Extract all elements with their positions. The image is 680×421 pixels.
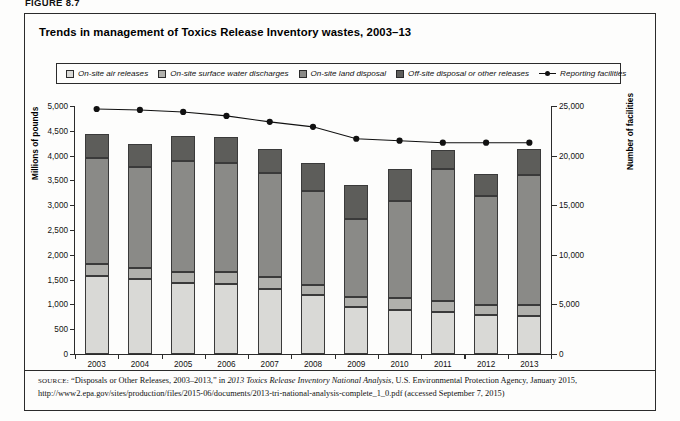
x-axis-label: 2003	[88, 360, 106, 369]
line-data-point[interactable]	[223, 113, 229, 119]
line-data-point[interactable]	[440, 140, 446, 146]
x-axis-label: 2004	[131, 360, 149, 369]
legend-item-label: Off-site disposal or other releases	[408, 69, 529, 78]
bar-segment[interactable]	[301, 191, 325, 284]
bar-segment[interactable]	[128, 167, 152, 269]
x-axis-tick	[291, 355, 292, 359]
x-axis-label: 2005	[174, 360, 192, 369]
bar-column[interactable]	[431, 150, 455, 354]
bar-column[interactable]	[171, 136, 195, 354]
bar-column[interactable]	[128, 144, 152, 354]
bar-segment[interactable]	[431, 169, 455, 302]
bar-column[interactable]	[85, 134, 109, 354]
line-data-point[interactable]	[483, 140, 489, 146]
bar-segment[interactable]	[301, 163, 325, 192]
bar-column[interactable]	[517, 149, 541, 354]
bar-column[interactable]	[474, 174, 498, 354]
bar-segment[interactable]	[431, 301, 455, 311]
bar-segment[interactable]	[214, 284, 238, 354]
figure-root: FIGURE 8.7 Trends in management of Toxic…	[0, 0, 680, 421]
y-axis-left-tick	[70, 304, 75, 305]
page-title: Trends in management of Toxics Release I…	[39, 26, 411, 38]
bar-segment[interactable]	[214, 137, 238, 162]
x-axis-tick	[162, 355, 163, 359]
bar-segment[interactable]	[171, 136, 195, 160]
bar-segment[interactable]	[474, 305, 498, 315]
legend-reporting-facilities[interactable]: Reporting facilities	[539, 69, 626, 78]
legend-swatch-icon	[158, 70, 166, 78]
bar-segment[interactable]	[344, 219, 368, 297]
bar-segment[interactable]	[344, 185, 368, 219]
bar-segment[interactable]	[517, 175, 541, 305]
x-axis-tick	[205, 355, 206, 359]
y-axis-left-tick	[70, 156, 75, 157]
bar-segment[interactable]	[85, 264, 109, 276]
bar-segment[interactable]	[301, 295, 325, 354]
line-data-point[interactable]	[396, 138, 402, 144]
bar-column[interactable]	[344, 185, 368, 354]
bar-segment[interactable]	[214, 272, 238, 284]
line-data-point[interactable]	[137, 107, 143, 113]
bar-segment[interactable]	[517, 305, 541, 316]
bar-segment[interactable]	[388, 298, 412, 309]
plot-area: 05001,0001,5002,0002,5003,0003,5004,0004…	[75, 106, 551, 354]
y-axis-right-label: 20,000	[559, 151, 584, 160]
chart-legend: On-site air releasesOn-site surface wate…	[56, 63, 621, 84]
line-data-point[interactable]	[310, 124, 316, 130]
bar-segment[interactable]	[128, 144, 152, 167]
line-data-point[interactable]	[267, 119, 273, 125]
y-axis-right-label: 5,000	[559, 300, 580, 309]
x-axis-tick	[248, 355, 249, 359]
y-axis-right-label: 0	[559, 350, 564, 359]
bar-segment[interactable]	[171, 161, 195, 272]
bar-column[interactable]	[258, 149, 282, 354]
bar-segment[interactable]	[258, 149, 282, 173]
line-data-point[interactable]	[180, 109, 186, 115]
bar-segment[interactable]	[431, 312, 455, 354]
x-axis-label: 2012	[477, 360, 495, 369]
line-data-point[interactable]	[526, 140, 532, 146]
legend-off-site-disposal-or-other-releases[interactable]: Off-site disposal or other releases	[396, 69, 529, 78]
bar-segment[interactable]	[474, 196, 498, 305]
legend-on-site-land-disposal[interactable]: On-site land disposal	[299, 69, 387, 78]
line-data-point[interactable]	[94, 106, 100, 112]
bar-segment[interactable]	[344, 297, 368, 307]
legend-on-site-surface-water-discharges[interactable]: On-site surface water discharges	[158, 69, 288, 78]
bar-segment[interactable]	[517, 149, 541, 176]
y-axis-left-label: 4,000	[48, 151, 69, 160]
bar-segment[interactable]	[388, 169, 412, 202]
bar-segment[interactable]	[171, 272, 195, 283]
y-axis-right-tick	[552, 106, 557, 107]
bar-column[interactable]	[388, 169, 412, 355]
bar-segment[interactable]	[128, 279, 152, 354]
bar-segment[interactable]	[431, 150, 455, 169]
y-axis-right-line	[551, 106, 552, 354]
bar-segment[interactable]	[258, 173, 282, 276]
legend-item-label: Reporting facilities	[560, 69, 626, 78]
bar-segment[interactable]	[301, 285, 325, 296]
legend-swatch-icon	[396, 70, 404, 78]
bar-segment[interactable]	[474, 315, 498, 354]
bar-segment[interactable]	[85, 276, 109, 354]
legend-swatch-icon	[299, 70, 307, 78]
y-axis-right-tick	[552, 255, 557, 256]
bar-segment[interactable]	[214, 163, 238, 272]
bar-segment[interactable]	[171, 283, 195, 354]
bar-segment[interactable]	[388, 201, 412, 298]
bar-segment[interactable]	[85, 134, 109, 158]
x-axis-line	[74, 354, 552, 355]
y-axis-left-label: 2,500	[48, 226, 69, 235]
bar-segment[interactable]	[344, 307, 368, 354]
bar-segment[interactable]	[258, 277, 282, 289]
bar-segment[interactable]	[474, 174, 498, 196]
bar-segment[interactable]	[85, 158, 109, 264]
bar-segment[interactable]	[388, 310, 412, 354]
line-data-point[interactable]	[353, 136, 359, 142]
bar-segment[interactable]	[128, 268, 152, 278]
bar-segment[interactable]	[258, 289, 282, 354]
x-axis-label: 2010	[390, 360, 408, 369]
legend-on-site-air-releases[interactable]: On-site air releases	[66, 69, 148, 78]
bar-column[interactable]	[214, 137, 238, 354]
bar-column[interactable]	[301, 163, 325, 354]
bar-segment[interactable]	[517, 316, 541, 354]
